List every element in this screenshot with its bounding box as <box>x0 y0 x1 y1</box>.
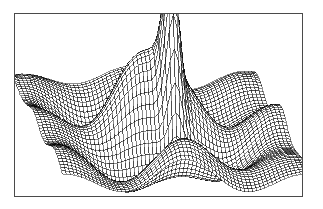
mesh-cell <box>299 169 302 172</box>
figure-root <box>0 0 323 209</box>
plot-frame-border <box>14 13 303 197</box>
surface-wireframe-svg <box>15 14 302 196</box>
mesh-cell <box>263 103 268 105</box>
surface-mesh-container <box>15 14 302 196</box>
